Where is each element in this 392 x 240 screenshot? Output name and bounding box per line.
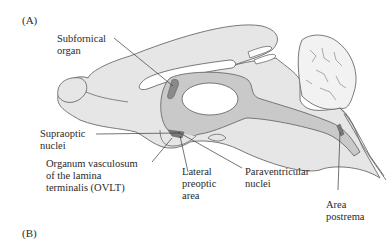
panel-label-b: (B)	[22, 227, 37, 239]
label-paraventricular-nuclei: Paraventricular nuclei	[245, 166, 309, 190]
label-ovlt: Organum vasculosum of the lamina termina…	[46, 158, 138, 194]
thalamus	[182, 83, 238, 115]
label-supraoptic-nuclei: Supraoptic nuclei	[40, 128, 86, 152]
label-lateral-preoptic-area: Lateral preoptic area	[182, 166, 216, 202]
panel-label-a: (A)	[22, 14, 37, 26]
cerebellum	[298, 35, 356, 109]
label-subfornical-organ: Subfornical organ	[57, 33, 106, 57]
label-area-postrema: Area postrema	[326, 199, 365, 223]
circumventricular-organs-figure: (A) (B) Subfornical organ Supraoptic nuc…	[0, 0, 392, 240]
